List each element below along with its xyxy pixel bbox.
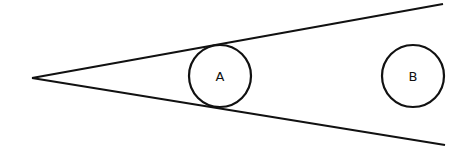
wedge-upper-line <box>32 4 443 78</box>
wedge-diagram: A B <box>0 0 471 153</box>
circle-a-label: A <box>216 69 225 84</box>
wedge-lower-line <box>32 78 445 145</box>
circle-b-label: B <box>409 69 418 84</box>
